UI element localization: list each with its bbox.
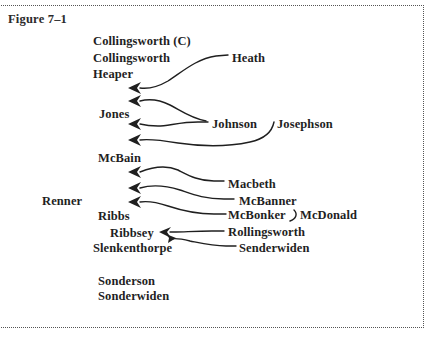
node-mcdonald: McDonald	[300, 208, 357, 223]
node-senderwiden: Senderwiden	[239, 241, 310, 256]
node-ribbs: Ribbs	[98, 209, 130, 224]
link-mcbonker-to-mcbain	[128, 196, 226, 214]
node-macbeth: Macbeth	[228, 177, 276, 192]
link-mcbanner-to-mcbain	[128, 182, 234, 199]
node-jones: Jones	[99, 107, 129, 122]
node-collingsworth-c: Collingsworth (C)	[93, 34, 191, 49]
node-ribbsey: Ribbsey	[110, 226, 154, 241]
link-mcdonald-to-mcbonker	[290, 210, 296, 221]
node-heath: Heath	[232, 51, 265, 66]
link-macbeth-to-mcbain	[128, 166, 224, 181]
node-johnson: Johnson	[212, 117, 257, 132]
node-rollingsworth: Rollingsworth	[228, 225, 305, 240]
figure-caption: Figure 7–1	[8, 12, 67, 27]
node-mcbonker: McBonker	[228, 208, 286, 223]
node-renner: Renner	[42, 194, 82, 209]
node-heaper: Heaper	[93, 67, 133, 82]
figure-container: Figure 7–1	[0, 0, 435, 343]
link-rollingsworth-to-ribbsey	[159, 227, 224, 238]
node-collingsworth: Collingsworth	[93, 51, 170, 66]
node-slenkenthorpe: Slenkenthorpe	[93, 241, 172, 256]
link-johnson-to-jones	[128, 118, 208, 130]
node-josephson: Josephson	[277, 117, 333, 132]
link-senderwiden-to-slenkenthorpe	[166, 234, 236, 246]
link-johnson-up-to-jones	[128, 95, 206, 121]
arrow-layer	[0, 0, 435, 343]
node-sonderson: Sonderson	[98, 274, 155, 289]
node-sonderwiden: Sonderwiden	[98, 289, 169, 304]
node-mcbain: McBain	[98, 151, 141, 166]
node-mcbanner: McBanner	[239, 194, 297, 209]
figure-border	[0, 5, 424, 328]
